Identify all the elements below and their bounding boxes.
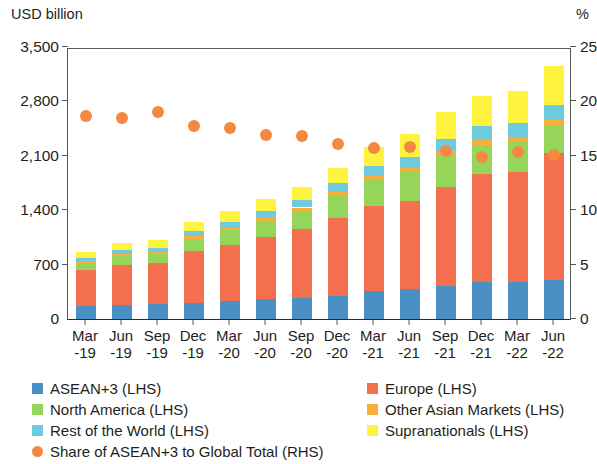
bar-segment[interactable] (292, 200, 312, 207)
bar-segment[interactable] (544, 105, 564, 121)
bar-segment[interactable] (220, 211, 240, 221)
bar-stack[interactable] (472, 47, 492, 319)
bar-segment[interactable] (508, 172, 528, 282)
bar-segment[interactable] (292, 187, 312, 201)
bar-segment[interactable] (328, 195, 348, 218)
bar-segment[interactable] (364, 291, 384, 319)
bar-segment[interactable] (112, 265, 132, 305)
bar-segment[interactable] (364, 176, 384, 180)
bar-segment[interactable] (292, 229, 312, 297)
bar-segment[interactable] (544, 280, 564, 319)
share-data-point[interactable] (116, 112, 128, 124)
bar-segment[interactable] (328, 183, 348, 192)
bar-segment[interactable] (256, 218, 276, 221)
bar-segment[interactable] (76, 258, 96, 261)
bar-segment[interactable] (148, 263, 168, 304)
share-data-point[interactable] (440, 145, 452, 157)
bar-segment[interactable] (76, 252, 96, 258)
bar-segment[interactable] (220, 222, 240, 228)
bar-segment[interactable] (400, 201, 420, 289)
bar-stack[interactable] (148, 47, 168, 319)
bar-stack[interactable] (220, 47, 240, 319)
share-data-point[interactable] (368, 142, 380, 154)
bar-segment[interactable] (472, 126, 492, 140)
bar-segment[interactable] (220, 228, 240, 230)
bar-stack[interactable] (508, 47, 528, 319)
bar-segment[interactable] (400, 172, 420, 201)
bar-segment[interactable] (76, 270, 96, 305)
bar-segment[interactable] (544, 120, 564, 125)
bar-stack[interactable] (328, 47, 348, 319)
share-data-point[interactable] (296, 130, 308, 142)
bar-segment[interactable] (184, 239, 204, 251)
bar-segment[interactable] (112, 250, 132, 254)
bar-segment[interactable] (508, 282, 528, 319)
share-data-point[interactable] (404, 141, 416, 153)
share-data-point[interactable] (260, 129, 272, 141)
bar-segment[interactable] (220, 301, 240, 319)
bar-segment[interactable] (184, 251, 204, 303)
bar-stack[interactable] (400, 47, 420, 319)
bar-segment[interactable] (400, 168, 420, 173)
bar-segment[interactable] (436, 187, 456, 287)
bar-stack[interactable] (544, 47, 564, 319)
bar-segment[interactable] (112, 305, 132, 319)
bar-segment[interactable] (544, 66, 564, 104)
bar-segment[interactable] (256, 199, 276, 211)
bar-segment[interactable] (292, 208, 312, 211)
bar-segment[interactable] (184, 222, 204, 231)
bar-segment[interactable] (436, 156, 456, 187)
bar-stack[interactable] (292, 47, 312, 319)
bar-segment[interactable] (400, 289, 420, 319)
bar-stack[interactable] (112, 47, 132, 319)
bar-segment[interactable] (220, 230, 240, 244)
bar-segment[interactable] (256, 237, 276, 298)
share-data-point[interactable] (80, 110, 92, 122)
bar-segment[interactable] (508, 137, 528, 142)
bar-segment[interactable] (328, 168, 348, 184)
bar-segment[interactable] (184, 236, 204, 238)
bar-segment[interactable] (256, 211, 276, 218)
bar-segment[interactable] (112, 254, 132, 256)
bar-segment[interactable] (148, 254, 168, 263)
bar-segment[interactable] (508, 123, 528, 137)
bar-segment[interactable] (184, 231, 204, 236)
bar-segment[interactable] (148, 240, 168, 247)
bar-segment[interactable] (472, 140, 492, 145)
bar-segment[interactable] (256, 221, 276, 238)
bar-stack[interactable] (364, 47, 384, 319)
bar-segment[interactable] (328, 192, 348, 196)
bar-segment[interactable] (148, 248, 168, 252)
bar-segment[interactable] (472, 174, 492, 283)
bar-stack[interactable] (76, 47, 96, 319)
bar-segment[interactable] (364, 166, 384, 176)
bar-segment[interactable] (112, 243, 132, 250)
bar-segment[interactable] (364, 180, 384, 206)
bar-segment[interactable] (364, 206, 384, 291)
bar-segment[interactable] (292, 298, 312, 319)
bar-segment[interactable] (472, 96, 492, 126)
bar-stack[interactable] (436, 47, 456, 319)
bar-segment[interactable] (184, 303, 204, 319)
bar-segment[interactable] (148, 252, 168, 254)
bar-segment[interactable] (472, 282, 492, 319)
share-data-point[interactable] (476, 151, 488, 163)
bar-segment[interactable] (508, 91, 528, 124)
bar-segment[interactable] (292, 211, 312, 230)
share-data-point[interactable] (332, 138, 344, 150)
bar-segment[interactable] (400, 157, 420, 168)
bar-segment[interactable] (76, 261, 96, 263)
bar-segment[interactable] (544, 153, 564, 280)
bar-segment[interactable] (76, 306, 96, 319)
bar-segment[interactable] (436, 112, 456, 139)
bar-segment[interactable] (76, 263, 96, 271)
bar-stack[interactable] (256, 47, 276, 319)
bar-segment[interactable] (436, 286, 456, 319)
share-data-point[interactable] (188, 120, 200, 132)
bar-segment[interactable] (328, 218, 348, 296)
share-data-point[interactable] (548, 149, 560, 161)
bar-segment[interactable] (328, 296, 348, 319)
bar-stack[interactable] (184, 47, 204, 319)
share-data-point[interactable] (224, 122, 236, 134)
bar-segment[interactable] (256, 299, 276, 319)
